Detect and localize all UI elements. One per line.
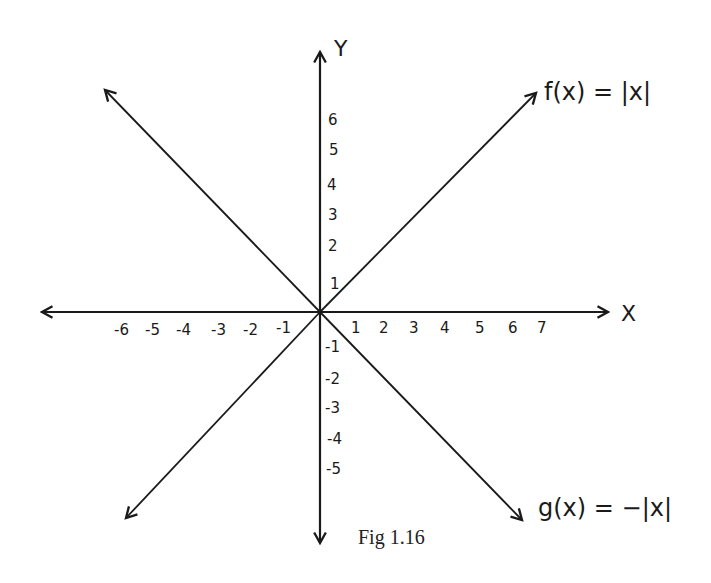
y-axis-label: Y	[333, 36, 348, 61]
x-ticks-positive: 1 2 3 4 5 6 7	[351, 319, 547, 337]
absolute-value-graph: Y X f(x) = |x| g(x) = −|x| -6 -5 -4 -3 -…	[0, 0, 711, 583]
f-left-arm	[105, 90, 320, 312]
g-right-arm	[320, 312, 522, 520]
x-tick-label: 5	[475, 319, 485, 337]
y-tick-label: 3	[328, 206, 338, 224]
x-tick-label: 6	[508, 319, 518, 337]
y-tick-label: 5	[329, 141, 339, 159]
f-right-arm	[320, 93, 536, 312]
x-tick-label: -4	[176, 321, 191, 339]
x-tick-label: -6	[114, 321, 129, 339]
y-tick-label: -4	[327, 430, 342, 448]
x-tick-label: -5	[145, 321, 160, 339]
x-ticks-negative: -6 -5 -4 -3 -2 -1	[114, 319, 291, 339]
y-tick-label: -3	[325, 399, 340, 417]
x-tick-label: -3	[211, 321, 226, 339]
x-tick-label: 1	[351, 319, 361, 337]
y-tick-label: -5	[326, 460, 341, 478]
x-tick-label: -1	[276, 319, 291, 337]
y-tick-label: -2	[325, 370, 340, 388]
y-ticks-negative: -1 -2 -3 -4 -5	[325, 338, 342, 478]
g-function-label: g(x) = −|x|	[538, 494, 672, 522]
y-tick-label: 6	[328, 111, 338, 129]
y-tick-label: -1	[325, 338, 340, 356]
f-function-label: f(x) = |x|	[544, 78, 651, 106]
x-tick-label: 7	[537, 319, 547, 337]
y-tick-label: 1	[330, 275, 340, 293]
y-tick-label: 4	[327, 176, 337, 194]
y-tick-label: 2	[328, 237, 338, 255]
x-tick-label: -2	[243, 321, 258, 339]
figure-caption: Fig 1.16	[358, 526, 425, 549]
x-axis-label: X	[621, 301, 636, 326]
x-tick-label: 3	[409, 319, 419, 337]
x-tick-label: 2	[379, 319, 389, 337]
g-left-arm	[126, 312, 320, 518]
y-ticks-positive: 1 2 3 4 5 6	[327, 111, 340, 293]
x-tick-label: 4	[440, 319, 450, 337]
